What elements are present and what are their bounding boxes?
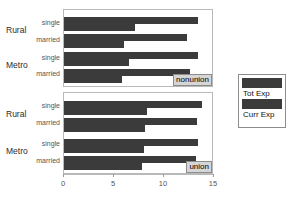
y-inner-label-married: married — [0, 70, 60, 78]
bar-tot-exp — [64, 139, 198, 146]
bar-curr-exp — [64, 24, 135, 31]
bar-curr-exp — [64, 108, 147, 115]
bar-tot-exp — [64, 156, 196, 163]
legend-swatch-tot-exp — [242, 78, 282, 88]
panel-nonunion: nonunion — [63, 9, 213, 87]
y-outer-label-metro: Metro — [6, 61, 28, 70]
x-tick-mark — [113, 174, 114, 177]
bar-tot-exp — [64, 118, 197, 125]
x-tick-label: 15 — [209, 179, 217, 188]
x-tick-label: 10 — [159, 179, 167, 188]
x-tick-mark — [213, 174, 214, 177]
strip-label-union: union — [186, 161, 212, 173]
x-tick-mark — [63, 174, 64, 177]
y-inner-label-married: married — [0, 119, 60, 127]
strip-label-nonunion: nonunion — [173, 74, 212, 86]
bar-tot-exp — [64, 17, 198, 24]
y-outer-label-rural: Rural — [6, 110, 26, 119]
legend-label-curr-exp: Curr Exp — [242, 109, 282, 120]
legend-label-tot-exp: Tot Exp — [242, 88, 282, 99]
bar-tot-exp — [64, 101, 202, 108]
y-inner-label-married: married — [0, 36, 60, 44]
bar-tot-exp — [64, 34, 187, 41]
bar-curr-exp — [64, 125, 145, 132]
panel-union: union — [63, 92, 213, 174]
bar-curr-exp — [64, 146, 144, 153]
legend-swatch-curr-exp — [242, 99, 282, 109]
x-tick-label: 5 — [111, 179, 115, 188]
bar-curr-exp — [64, 41, 124, 48]
bar-tot-exp — [64, 52, 198, 59]
legend: Tot Exp Curr Exp — [238, 74, 286, 128]
x-tick-label: 0 — [61, 179, 65, 188]
bar-curr-exp — [64, 59, 129, 66]
x-axis: 0 5 10 15 — [63, 174, 213, 196]
bar-curr-exp — [64, 163, 142, 170]
x-tick-mark — [163, 174, 164, 177]
bar-tot-exp — [64, 69, 190, 76]
y-outer-label-metro: Metro — [6, 147, 28, 156]
trellis-bar-chart-figure: nonunion single married single married R… — [0, 0, 290, 199]
bar-curr-exp — [64, 76, 122, 83]
y-inner-label-married: married — [0, 157, 60, 165]
y-outer-label-rural: Rural — [6, 26, 26, 35]
x-axis-line — [63, 174, 213, 175]
